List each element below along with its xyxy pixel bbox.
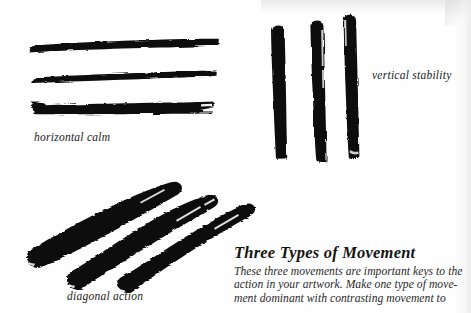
diagonal-action-strokes: [27, 182, 255, 293]
text-block-title: Three Types of Movement: [234, 243, 462, 263]
text-block: Three Types of Movement These three move…: [234, 243, 462, 305]
body-line: These three movements are important keys…: [234, 265, 462, 278]
artwork-page: horizontal calm vertical stability diago…: [0, 0, 471, 313]
text-block-body: These three movements are important keys…: [234, 265, 462, 305]
horizontal-calm-strokes: [30, 39, 219, 115]
caption-diagonal-action: diagonal action: [67, 290, 143, 302]
body-line: ment dominant with contrasting movement …: [234, 292, 462, 305]
body-line: action in your artwork. Make one type of…: [234, 278, 462, 291]
caption-horizontal-calm: horizontal calm: [34, 131, 110, 143]
caption-vertical-stability: vertical stability: [372, 69, 452, 81]
vertical-stability-strokes: [271, 15, 359, 162]
